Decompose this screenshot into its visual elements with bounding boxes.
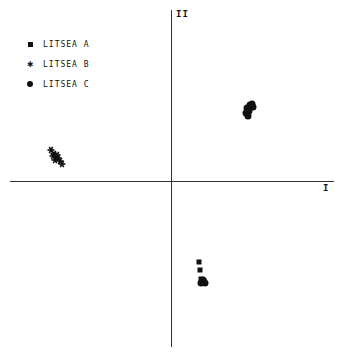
data-point [249,101,256,108]
data-point [198,280,205,287]
data-point [197,260,202,265]
data-points [0,0,344,358]
data-point [198,268,203,273]
scatter-plot: I II LITSEA A ✱ LITSEA B LITSEA C [0,0,344,358]
data-point [245,113,252,120]
